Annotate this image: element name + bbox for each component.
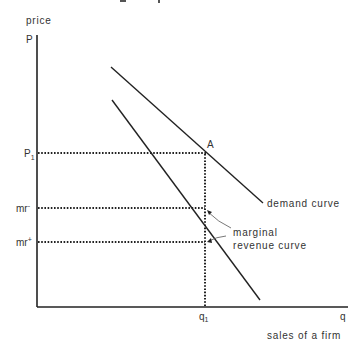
x-axis-title: sales of a firm bbox=[267, 330, 341, 341]
mr-annotation-arrows bbox=[207, 210, 231, 243]
cropped-title bbox=[120, 0, 160, 3]
p1-label: P1 bbox=[24, 148, 35, 161]
mr-minus-label: mr- bbox=[16, 202, 31, 214]
mr-curve-label-line1: marginal bbox=[233, 227, 278, 238]
demand-curve-label: demand curve bbox=[267, 198, 340, 209]
mr-plus-label: mr+ bbox=[16, 236, 32, 248]
q1-label: q1 bbox=[199, 311, 209, 323]
point-a-label: A bbox=[207, 139, 214, 150]
y-axis-symbol: P bbox=[26, 34, 33, 45]
monopoly-diagram: price P P1 mr- mr+ A demand curve margin… bbox=[0, 0, 364, 354]
demand-curve bbox=[111, 67, 263, 203]
y-axis-title: price bbox=[26, 15, 52, 26]
marginal-revenue-curve bbox=[112, 100, 260, 300]
mr-curve-label-line2: revenue curve bbox=[233, 240, 307, 251]
x-axis-symbol: q bbox=[340, 311, 346, 322]
